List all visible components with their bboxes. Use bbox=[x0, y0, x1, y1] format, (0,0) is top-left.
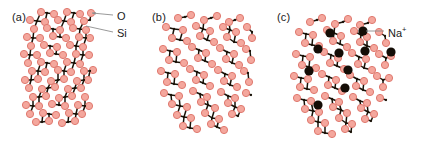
oxygen-atom bbox=[348, 120, 355, 127]
silicon-atom bbox=[359, 100, 361, 102]
silicon-atom bbox=[362, 89, 364, 91]
oxygen-atom bbox=[375, 28, 382, 35]
silicon-atom bbox=[330, 54, 332, 56]
sodium-ion bbox=[304, 66, 313, 75]
oxygen-atom bbox=[381, 61, 388, 68]
silicon-atom bbox=[311, 44, 313, 46]
oxygen-atom bbox=[370, 110, 377, 117]
oxygen-atom bbox=[337, 32, 344, 39]
oxygen-atom bbox=[292, 50, 299, 57]
sodium-ion bbox=[343, 65, 352, 74]
oxygen-atom bbox=[293, 94, 300, 101]
oxygen-atom bbox=[307, 97, 314, 104]
oxygen-atom bbox=[368, 16, 375, 23]
oxygen-atom bbox=[332, 76, 339, 83]
silicon-atom bbox=[342, 21, 344, 23]
silicon-atom bbox=[316, 19, 318, 21]
silicon-atom bbox=[334, 87, 336, 89]
oxygen-atom bbox=[366, 88, 373, 95]
silicon-atom bbox=[385, 99, 387, 101]
silicon-atom bbox=[324, 132, 326, 134]
sodium-ion bbox=[313, 100, 322, 109]
callout-sodium-text: Na bbox=[388, 27, 402, 39]
silicon-atom bbox=[356, 78, 358, 80]
oxygen-atom bbox=[306, 53, 313, 60]
oxygen-atom bbox=[335, 98, 342, 105]
oxygen-atom bbox=[348, 49, 355, 56]
callout-sodium-charge: + bbox=[402, 25, 406, 34]
silicon-atom bbox=[350, 131, 352, 133]
sodium-ion bbox=[325, 28, 334, 37]
oxygen-atom bbox=[375, 50, 382, 57]
silicon-atom bbox=[382, 79, 384, 81]
oxygen-atom bbox=[363, 99, 370, 106]
oxygen-atom bbox=[295, 28, 302, 35]
oxygen-atom bbox=[350, 27, 357, 34]
oxygen-atom bbox=[296, 83, 303, 90]
silicon-atom bbox=[300, 77, 302, 79]
oxygen-atom bbox=[314, 127, 321, 134]
oxygen-atom bbox=[385, 74, 392, 81]
oxygen-atom bbox=[343, 109, 350, 116]
oxygen-atom bbox=[331, 20, 338, 27]
sodium-ion bbox=[313, 44, 322, 53]
sodium-ion bbox=[334, 48, 343, 57]
oxygen-atom bbox=[328, 130, 335, 137]
sodium-ion bbox=[340, 83, 349, 92]
silicon-atom bbox=[367, 22, 369, 24]
oxygen-atom bbox=[329, 103, 336, 110]
silicon-atom bbox=[302, 55, 304, 57]
oxygen-atom bbox=[379, 83, 386, 90]
silicon-atom bbox=[339, 43, 341, 45]
oxygen-atom bbox=[304, 75, 311, 82]
oxygen-atom bbox=[373, 72, 380, 79]
oxygen-atom bbox=[356, 38, 363, 45]
silicon-atom bbox=[384, 35, 386, 37]
oxygen-atom bbox=[326, 59, 333, 66]
oxygen-atom bbox=[343, 43, 350, 50]
oxygen-atom bbox=[382, 39, 389, 46]
oxygen-atom bbox=[309, 31, 316, 38]
oxygen-atom bbox=[301, 39, 308, 46]
oxygen-atom bbox=[362, 55, 369, 62]
silicon-atom bbox=[363, 67, 365, 69]
silicon-atom bbox=[303, 99, 305, 101]
silicon-atom bbox=[370, 120, 372, 122]
silicon-atom bbox=[367, 111, 369, 113]
oxygen-atom bbox=[335, 114, 342, 121]
silicon-atom bbox=[345, 122, 347, 124]
sodium-ion bbox=[360, 46, 369, 55]
oxygen-atom bbox=[352, 82, 359, 89]
panel-c-structure-svg bbox=[0, 0, 422, 146]
silicon-atom bbox=[312, 110, 314, 112]
oxygen-atom bbox=[344, 15, 351, 22]
oxygen-atom bbox=[370, 44, 377, 51]
oxygen-atom bbox=[357, 104, 364, 111]
silicon-atom bbox=[331, 98, 333, 100]
oxygen-atom bbox=[329, 37, 336, 44]
oxygen-atom bbox=[321, 119, 328, 126]
oxygen-atom bbox=[301, 105, 308, 112]
sodium-ion bbox=[386, 47, 395, 56]
oxygen-atom bbox=[318, 70, 325, 77]
silicon-atom bbox=[306, 88, 308, 90]
oxygen-atom bbox=[376, 94, 383, 101]
figure-silica-glass-structures: (a) O Si (b) (c) Na+ bbox=[0, 0, 422, 146]
silicon-atom bbox=[336, 65, 338, 67]
oxygen-atom bbox=[354, 60, 361, 67]
oxygen-atom bbox=[324, 81, 331, 88]
oxygen-atom bbox=[298, 61, 305, 68]
oxygen-atom bbox=[341, 125, 348, 132]
oxygen-atom bbox=[321, 92, 328, 99]
oxygen-atom bbox=[310, 86, 317, 93]
callout-sodium-label: Na+ bbox=[388, 27, 406, 39]
oxygen-atom bbox=[368, 66, 375, 73]
silicon-atom bbox=[305, 33, 307, 35]
silicon-atom bbox=[340, 109, 342, 111]
oxygen-atom bbox=[306, 18, 313, 25]
silicon-atom bbox=[328, 76, 330, 78]
oxygen-atom bbox=[318, 14, 325, 21]
silicon-atom bbox=[358, 56, 360, 58]
oxygen-atom bbox=[360, 77, 367, 84]
oxygen-atom bbox=[307, 116, 314, 123]
